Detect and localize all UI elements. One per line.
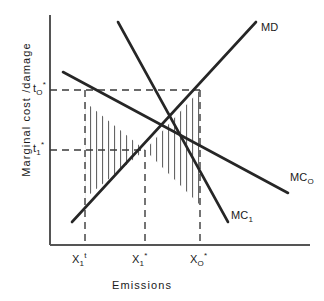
- plot-canvas: [0, 0, 324, 301]
- y-tick-label-t1: t1*: [33, 141, 44, 157]
- x-axis-title: Emissions: [112, 280, 172, 291]
- y-tick-label-t0: tO*: [33, 81, 46, 97]
- x-tick-label-x1t: X1t: [72, 252, 87, 268]
- curve-label-mc1: MC1: [231, 210, 253, 224]
- hatched-region-right: [145, 90, 200, 205]
- y-axis-title: Marginal cost /damage: [21, 30, 32, 190]
- curve-mc1: [118, 22, 228, 222]
- emissions-tax-diagram: tO* t1* X1t X1* XO* MD MCO MC1 Marginal …: [0, 0, 324, 301]
- curve-label-mc0: MCO: [290, 172, 314, 186]
- x-tick-label-x1star: X1*: [132, 252, 148, 268]
- curve-label-md: MD: [261, 22, 279, 36]
- x-tick-label-x0star: XO*: [190, 252, 207, 268]
